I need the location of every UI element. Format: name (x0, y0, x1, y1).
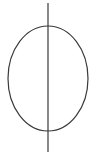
ellipse-with-axis-diagram (0, 0, 96, 166)
diagram-canvas (0, 0, 96, 166)
